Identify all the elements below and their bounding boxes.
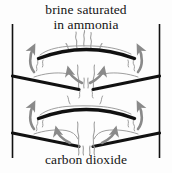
lower-arched-tray xyxy=(39,110,135,119)
vapor-mid-center xyxy=(78,65,95,89)
diagram-canvas xyxy=(0,0,172,173)
gas-arrow-lower-left xyxy=(30,104,34,129)
solvay-tower-diagram: brine saturated in ammonia xyxy=(0,0,172,173)
lower-downcomer-right xyxy=(93,133,160,147)
flow-arrows xyxy=(30,47,142,143)
vapor-lower-downcomer xyxy=(34,130,138,139)
upper-downcomer-trays xyxy=(13,76,160,90)
lower-downcomer-trays xyxy=(13,133,160,147)
gas-arrow-upper-right xyxy=(138,47,142,72)
bottom-label: carbon dioxide xyxy=(0,152,172,167)
upper-arched-tray xyxy=(39,50,135,59)
gas-arrow-lower-right xyxy=(138,104,142,129)
upper-downcomer-left xyxy=(13,76,80,90)
vapor-bottom-rising xyxy=(78,122,95,146)
lower-downcomer-left xyxy=(13,133,80,147)
vapor-upper-downcomer xyxy=(34,73,138,98)
upper-downcomer-right xyxy=(93,76,160,90)
gas-arrow-upper-left xyxy=(30,47,34,72)
gas-arrow-upper-center-left xyxy=(69,70,83,84)
gas-arrow-upper-center-right xyxy=(90,70,104,84)
